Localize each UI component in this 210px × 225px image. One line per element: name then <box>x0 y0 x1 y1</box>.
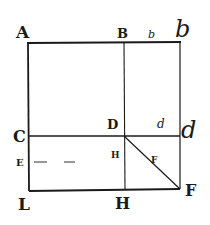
geometric-diagram: A B b b C D d d E H F L H F <box>0 0 210 225</box>
label-H-inner: H <box>111 150 120 160</box>
label-d-small: d <box>157 117 165 131</box>
label-b-large: b <box>175 15 190 43</box>
label-B: B <box>117 26 128 41</box>
label-A: A <box>15 22 30 42</box>
left-edge <box>28 43 29 191</box>
vertical-divider <box>124 43 125 190</box>
label-b-small: b <box>148 28 155 41</box>
label-E: E <box>16 157 24 168</box>
label-H: H <box>115 194 130 213</box>
label-F-inner: F <box>151 155 158 165</box>
label-D: D <box>107 117 118 132</box>
label-C: C <box>13 127 26 146</box>
bottom-edge <box>29 189 180 191</box>
top-edge <box>27 42 181 43</box>
label-d-large: d <box>181 116 196 144</box>
label-F: F <box>185 181 197 200</box>
label-L: L <box>18 194 30 214</box>
